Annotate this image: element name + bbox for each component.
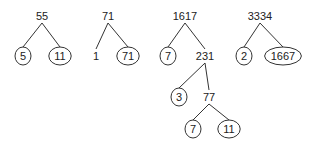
composite-node: 231 <box>196 50 214 62</box>
composite-node: 71 <box>102 10 114 22</box>
factor-tree-1617: 16177231377711 <box>160 10 240 138</box>
node-label: 11 <box>223 123 234 135</box>
prime-factor-node: 3 <box>171 88 187 106</box>
node-label: 3334 <box>248 10 272 22</box>
node-label: 1667 <box>271 50 295 62</box>
factor-tree-diagram: 555117117116177231377711333421667 <box>0 0 313 148</box>
node-label: 55 <box>36 10 48 22</box>
tree-edge <box>42 23 60 47</box>
node-label: 5 <box>20 50 26 62</box>
tree-edge <box>23 23 42 47</box>
factor-tree-3334: 333421667 <box>236 10 301 65</box>
tree-edge <box>205 63 209 90</box>
prime-factor-node: 11 <box>49 47 71 65</box>
node-label: 231 <box>196 50 214 62</box>
tree-edge <box>96 23 108 49</box>
node-label: 7 <box>190 123 196 135</box>
node-label: 3 <box>176 91 182 103</box>
factor-tree-55: 55511 <box>15 10 71 65</box>
composite-node: 1 <box>93 50 99 62</box>
tree-edge <box>193 104 209 120</box>
prime-factor-node: 11 <box>218 120 240 138</box>
prime-factor-node: 71 <box>117 47 139 65</box>
prime-factor-node: 2 <box>236 47 252 65</box>
tree-edge <box>108 23 128 47</box>
tree-edge <box>209 104 229 120</box>
node-label: 11 <box>54 50 65 62</box>
prime-factor-node: 7 <box>185 120 201 138</box>
composite-node: 77 <box>203 91 215 103</box>
composite-node: 55 <box>36 10 48 22</box>
tree-edge <box>168 23 185 47</box>
tree-edge <box>244 23 260 47</box>
tree-edge <box>260 23 283 47</box>
node-label: 71 <box>102 10 114 22</box>
node-label: 1 <box>93 50 99 62</box>
tree-edge <box>185 23 205 49</box>
prime-factor-node: 7 <box>160 47 176 65</box>
composite-node: 3334 <box>248 10 272 22</box>
composite-node: 1617 <box>173 10 197 22</box>
node-label: 7 <box>165 50 171 62</box>
node-label: 71 <box>122 50 134 62</box>
prime-factor-node: 1667 <box>265 47 302 65</box>
factor-tree-71: 71171 <box>93 10 139 65</box>
tree-edge <box>179 63 205 88</box>
prime-factor-node: 5 <box>15 47 31 65</box>
node-label: 1617 <box>173 10 197 22</box>
node-label: 77 <box>203 91 215 103</box>
node-label: 2 <box>241 50 247 62</box>
